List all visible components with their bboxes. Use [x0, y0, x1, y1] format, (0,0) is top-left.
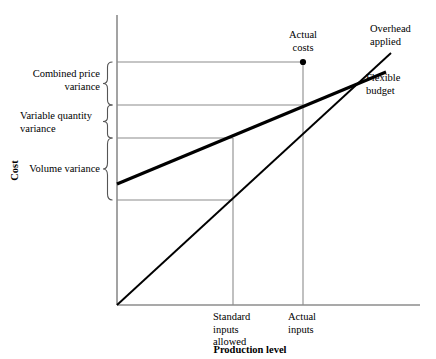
flexible-budget-line [117, 72, 386, 184]
overhead-applied-line [117, 53, 391, 305]
label-volume-variance: Volume variance [18, 163, 100, 176]
x-tick-actual-inputs: Actual inputs [288, 311, 348, 336]
actual-costs-marker [300, 59, 306, 65]
x-tick-standard-inputs-allowed: Standard inputs allowed [213, 311, 283, 349]
variance-analysis-chart: Combined price variance Variable quantit… [0, 0, 436, 359]
chart-canvas [0, 0, 436, 359]
label-combined-price-variance: Combined price variance [18, 68, 100, 93]
label-overhead-applied: Overhead applied [370, 23, 436, 48]
bracket-combined-price-variance [103, 62, 113, 105]
bracket-volume-variance [103, 138, 113, 200]
label-flexible-budget: Flexible budget [366, 72, 432, 97]
label-variable-quantity-variance: Variable quantity variance [20, 110, 102, 135]
y-axis-title: Cost [9, 154, 20, 188]
x-axis-title: Production level [190, 344, 310, 356]
label-actual-costs: Actual costs [272, 29, 334, 54]
bracket-variable-quantity-variance [103, 105, 113, 138]
